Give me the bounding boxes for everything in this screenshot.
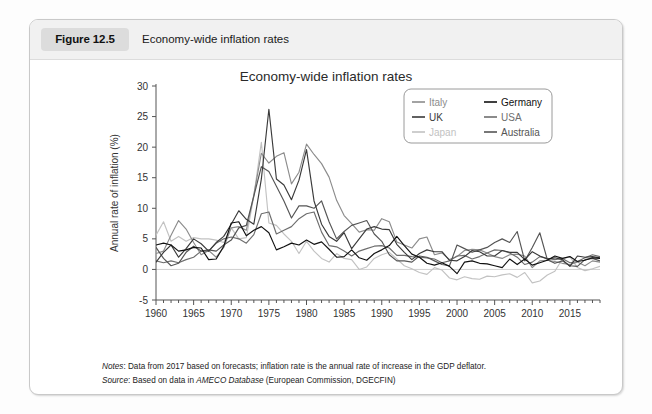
- legend-label-australia: Australia: [501, 127, 540, 138]
- x-axis-tick-label: 1965: [183, 308, 206, 319]
- x-axis-tick-label: 1980: [295, 308, 318, 319]
- y-axis-tick-label: 25: [137, 111, 149, 122]
- x-axis-tick-label: 1995: [408, 308, 431, 319]
- y-axis-tick-label: 5: [142, 233, 148, 244]
- legend-label-germany: Germany: [501, 97, 542, 108]
- source-line: Source: Based on data in AMECO Database …: [102, 374, 602, 388]
- x-axis-tick-label: 2000: [446, 308, 469, 319]
- x-axis-tick-label: 1960: [145, 308, 168, 319]
- x-axis-tick-label: 1985: [333, 308, 356, 319]
- x-axis-tick-label: 1975: [258, 308, 281, 319]
- source-database-name: AMECO Database: [196, 376, 263, 385]
- figure-number-badge: Figure 12.5: [41, 28, 129, 51]
- y-axis-tick-label: -5: [139, 295, 148, 306]
- x-axis-tick-label: 1990: [371, 308, 394, 319]
- source-text-before: : Based on data in: [128, 376, 196, 385]
- y-axis-title: Annual rate of inflation (%): [109, 134, 120, 252]
- x-axis-tick-label: 1970: [220, 308, 243, 319]
- legend-label-japan: Japan: [429, 127, 456, 138]
- x-axis-tick-label: 2010: [521, 308, 544, 319]
- legend-label-uk: UK: [429, 112, 443, 123]
- inflation-line-chart: 302520151050-519601965197019751980198519…: [30, 61, 624, 357]
- chart-container: Economy-wide inflation rates 30252015105…: [30, 61, 622, 357]
- legend-label-italy: Italy: [429, 97, 447, 108]
- source-text-after: (European Commission, DGECFIN): [264, 376, 396, 385]
- notes-line: Notes: Data from 2017 based on forecasts…: [102, 360, 602, 374]
- x-axis-tick-label: 2005: [484, 308, 507, 319]
- x-axis-tick-label: 2015: [559, 308, 582, 319]
- y-axis-tick-label: 15: [137, 172, 149, 183]
- notes-text: : Data from 2017 based on forecasts; inf…: [123, 362, 486, 371]
- figure-caption: Economy-wide inflation rates: [142, 28, 289, 51]
- figure-header-bar: Figure 12.5 Economy-wide inflation rates: [30, 20, 622, 60]
- figure-number-label: Figure 12.5: [41, 28, 129, 51]
- source-label: Source: [102, 376, 128, 385]
- figure-footnotes: Notes: Data from 2017 based on forecasts…: [102, 360, 602, 387]
- page-root: Figure 12.5 Economy-wide inflation rates…: [0, 0, 652, 414]
- y-axis-tick-label: 20: [137, 142, 149, 153]
- legend-label-usa: USA: [501, 112, 522, 123]
- y-axis-tick-label: 10: [137, 203, 149, 214]
- figure-card: Figure 12.5 Economy-wide inflation rates…: [29, 19, 623, 395]
- y-axis-tick-label: 0: [142, 264, 148, 275]
- notes-label: Notes: [102, 362, 123, 371]
- chart-legend: ItalyGermanyUKUSAJapanAustralia: [404, 89, 552, 143]
- y-axis-tick-label: 30: [137, 81, 149, 92]
